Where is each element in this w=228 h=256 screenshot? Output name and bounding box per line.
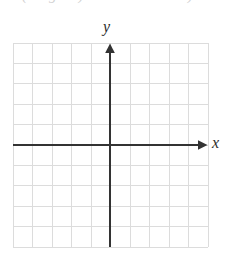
figure-canvas: (g) -2) a 4 [0, 0, 228, 256]
y-axis-arrowhead-icon [105, 44, 115, 54]
coordinate-plane-graphic [0, 0, 228, 256]
coordinate-plane-figure: y x [0, 0, 228, 256]
x-axis-arrowhead-icon [198, 140, 208, 150]
y-axis-label: y [103, 19, 110, 35]
x-axis-label: x [212, 135, 219, 151]
